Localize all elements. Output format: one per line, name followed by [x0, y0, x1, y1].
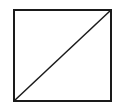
- diagram-canvas: [0, 0, 121, 108]
- diagonal-line: [14, 10, 111, 101]
